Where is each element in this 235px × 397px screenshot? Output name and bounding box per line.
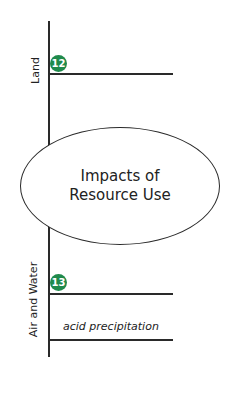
- badge-13: 13: [50, 274, 67, 291]
- detail-acid-precipitation: acid precipitation: [63, 320, 159, 333]
- air-water-branch-line: [48, 293, 173, 295]
- center-ellipse: Impacts of Resource Use: [20, 127, 220, 245]
- center-title-line2: Resource Use: [69, 186, 171, 205]
- land-branch-line: [48, 73, 173, 75]
- badge-12: 12: [50, 55, 67, 72]
- land-label: Land: [29, 57, 42, 84]
- detail-line: [48, 339, 173, 341]
- center-title-line1: Impacts of: [81, 167, 160, 186]
- air-water-label: Air and Water: [27, 262, 40, 337]
